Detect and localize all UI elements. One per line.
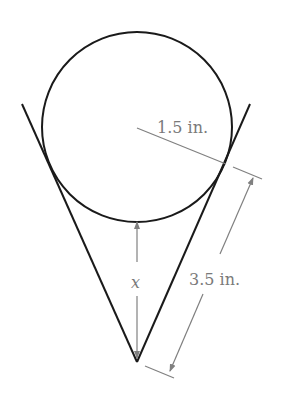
height-label: x — [131, 273, 140, 292]
cone-left-side — [22, 104, 137, 362]
radius-label: 1.5 in. — [157, 118, 208, 137]
slant-top-tick — [233, 167, 262, 179]
slant-label: 3.5 in. — [189, 270, 240, 289]
slant-bottom-tick — [145, 366, 174, 378]
slant-dimension-lower — [170, 294, 203, 371]
cone-circle-diagram: 1.5 in. 3.5 in. x — [0, 0, 282, 402]
cone-right-side — [137, 104, 250, 362]
slant-dimension-upper — [220, 178, 253, 254]
